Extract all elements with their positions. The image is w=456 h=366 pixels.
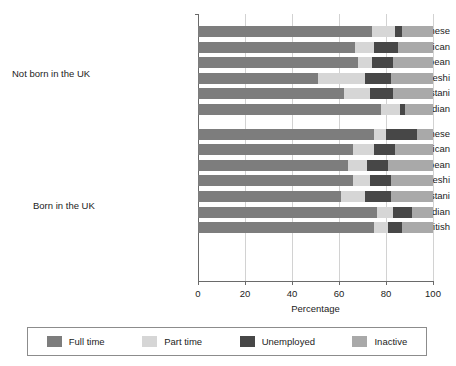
legend-swatch-part-time [142, 336, 157, 347]
bar-segment-part-time [381, 104, 400, 115]
bar-row [198, 104, 433, 115]
bar-segment-inactive [393, 88, 433, 99]
bar-segment-part-time [344, 88, 370, 99]
bar-segment-part-time [353, 175, 369, 186]
plot-area: 0 20 40 60 80 100 Percentage Not born in… [0, 0, 456, 300]
x-tick-label-80: 80 [381, 288, 392, 299]
bar-segment-full-time [198, 160, 348, 171]
bar-segment-unemployed [370, 175, 391, 186]
bar-row [198, 42, 433, 53]
bar-segment-full-time [198, 191, 341, 202]
bar-segment-unemployed [365, 73, 391, 84]
bar-segment-part-time [348, 160, 367, 171]
bar-segment-unemployed [365, 191, 391, 202]
x-tick-label-40: 40 [287, 288, 298, 299]
legend-swatch-full-time [47, 336, 62, 347]
legend-item-inactive: Inactive [352, 336, 407, 347]
x-axis-title: Percentage [198, 303, 433, 314]
bar-rows-container: ChineseBlack AfricanBlack CaribbeanBangl… [0, 0, 456, 282]
x-tick-label-60: 60 [334, 288, 345, 299]
bar-segment-unemployed [372, 57, 393, 68]
bar-segment-inactive [412, 207, 433, 218]
bar-segment-full-time [198, 129, 374, 140]
bar-segment-full-time [198, 222, 374, 233]
bar-segment-full-time [198, 207, 377, 218]
bar-segment-unemployed [374, 42, 398, 53]
bar-segment-part-time [353, 144, 374, 155]
bar-segment-unemployed [374, 144, 395, 155]
bar-segment-part-time [374, 129, 386, 140]
x-tick-label-0: 0 [195, 288, 200, 299]
bar-segment-unemployed [393, 207, 412, 218]
bar-segment-full-time [198, 57, 358, 68]
bar-segment-inactive [398, 42, 433, 53]
bar-row [198, 26, 433, 37]
legend-swatch-unemployed [240, 336, 255, 347]
bar-segment-inactive [391, 175, 433, 186]
bar-row [198, 73, 433, 84]
bar-segment-inactive [405, 104, 433, 115]
bar-row [198, 57, 433, 68]
x-tick-label-20: 20 [240, 288, 251, 299]
legend-swatch-inactive [352, 336, 367, 347]
legend-item-full-time: Full time [47, 336, 105, 347]
legend-label-part-time: Part time [164, 336, 202, 347]
bar-segment-part-time [358, 57, 372, 68]
bar-segment-inactive [417, 129, 433, 140]
bar-segment-part-time [341, 191, 365, 202]
bar-segment-part-time [377, 207, 393, 218]
bar-segment-unemployed [367, 160, 388, 171]
bar-row [198, 144, 433, 155]
x-tick-label-100: 100 [425, 288, 441, 299]
bar-segment-inactive [391, 73, 433, 84]
bar-segment-full-time [198, 42, 355, 53]
bar-segment-inactive [395, 144, 433, 155]
bar-segment-inactive [402, 222, 433, 233]
bar-row [198, 191, 433, 202]
bar-row [198, 207, 433, 218]
bar-segment-part-time [355, 42, 374, 53]
bar-segment-part-time [372, 26, 396, 37]
chart-legend: Full time Part time Unemployed Inactive [27, 327, 427, 356]
legend-label-inactive: Inactive [374, 336, 407, 347]
bar-segment-inactive [402, 26, 433, 37]
bar-segment-full-time [198, 104, 381, 115]
bar-segment-full-time [198, 175, 353, 186]
legend-label-unemployed: Unemployed [262, 336, 315, 347]
bar-segment-inactive [391, 191, 433, 202]
legend-item-unemployed: Unemployed [240, 336, 315, 347]
bar-row [198, 160, 433, 171]
bar-segment-unemployed [388, 222, 402, 233]
bar-segment-unemployed [370, 88, 394, 99]
bar-segment-full-time [198, 144, 353, 155]
bar-segment-full-time [198, 26, 372, 37]
bar-row [198, 129, 433, 140]
bar-segment-inactive [393, 57, 433, 68]
bar-segment-full-time [198, 88, 344, 99]
legend-label-full-time: Full time [69, 336, 105, 347]
bar-row [198, 88, 433, 99]
legend-item-part-time: Part time [142, 336, 202, 347]
bar-segment-unemployed [395, 26, 402, 37]
bar-segment-part-time [374, 222, 388, 233]
bar-row [198, 175, 433, 186]
bar-segment-part-time [318, 73, 365, 84]
bar-segment-full-time [198, 73, 318, 84]
bar-row [198, 222, 433, 233]
bar-segment-unemployed [386, 129, 417, 140]
bar-segment-inactive [388, 160, 433, 171]
stacked-bar-chart: 0 20 40 60 80 100 Percentage Not born in… [0, 0, 456, 366]
